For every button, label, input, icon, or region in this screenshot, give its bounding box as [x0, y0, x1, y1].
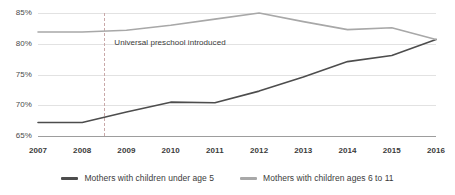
x-axis-tick-label: 2016 — [427, 146, 445, 155]
x-axis-tick-label: 2013 — [294, 146, 312, 155]
x-axis-tick-label: 2007 — [29, 146, 47, 155]
x-axis-tick-label: 2009 — [117, 146, 135, 155]
y-axis-tick-label: 75% — [0, 70, 32, 79]
series-line — [38, 13, 436, 39]
y-axis-tick-label: 85% — [0, 8, 32, 17]
legend-swatch-icon — [240, 177, 257, 180]
legend-item[interactable]: Mothers with children ages 6 to 11 — [240, 173, 394, 183]
annotation-label: Universal preschool introduced — [114, 38, 225, 47]
line-chart: 85%80%75%70%65% Universal preschool intr… — [0, 0, 455, 195]
series-line — [38, 39, 436, 122]
plot-area — [38, 13, 436, 136]
y-axis-tick-label: 80% — [0, 39, 32, 48]
x-axis-tick-label: 2010 — [162, 146, 180, 155]
legend-item[interactable]: Mothers with children under age 5 — [61, 173, 214, 183]
series-lines — [38, 13, 436, 136]
x-axis-labels: 2007200820092010201120122013201420152016 — [38, 146, 436, 160]
legend-label: Mothers with children ages 6 to 11 — [263, 173, 394, 183]
legend: Mothers with children under age 5Mothers… — [0, 173, 455, 183]
gridline — [38, 136, 436, 137]
x-axis-tick-label: 2015 — [383, 146, 401, 155]
x-axis-tick-label: 2008 — [73, 146, 91, 155]
y-axis-tick-label: 70% — [0, 100, 32, 109]
x-axis-tick-label: 2014 — [338, 146, 356, 155]
legend-label: Mothers with children under age 5 — [84, 173, 214, 183]
x-axis-tick-label: 2011 — [206, 146, 224, 155]
y-axis-tick-label: 65% — [0, 131, 32, 140]
legend-swatch-icon — [61, 177, 78, 180]
x-axis-tick-label: 2012 — [250, 146, 268, 155]
